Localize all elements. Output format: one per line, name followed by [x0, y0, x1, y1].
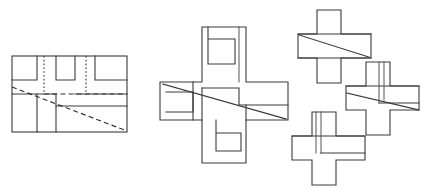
- figure-canvas: Rectangle-to-cross geometric dissection …: [0, 0, 429, 190]
- diagram-root: Rectangle-to-cross geometric dissection …: [0, 0, 429, 190]
- source-rectangle-panel: [12, 56, 127, 132]
